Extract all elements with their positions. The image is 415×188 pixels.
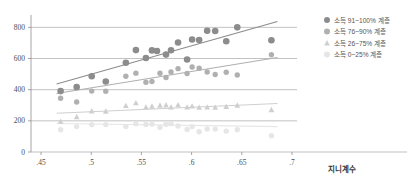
data-point xyxy=(204,27,211,34)
data-point xyxy=(184,71,189,76)
data-point xyxy=(269,133,274,138)
data-point xyxy=(58,127,63,132)
data-point xyxy=(89,88,94,93)
data-point xyxy=(212,126,217,131)
data-point xyxy=(74,99,79,104)
data-point xyxy=(123,124,128,129)
data-point xyxy=(149,103,155,108)
legend-marker-2 xyxy=(324,40,330,45)
data-point xyxy=(163,51,170,58)
data-point xyxy=(184,56,191,63)
y-tick-label: 0 xyxy=(21,148,25,157)
data-point xyxy=(204,126,209,131)
data-point xyxy=(212,104,218,109)
data-point xyxy=(163,75,168,80)
data-point xyxy=(223,38,230,45)
data-point xyxy=(175,66,180,71)
legend-marker-0 xyxy=(324,17,330,23)
x-tick-label: .7 xyxy=(289,158,295,167)
data-point xyxy=(168,104,174,109)
data-point xyxy=(74,124,79,129)
data-point xyxy=(269,107,275,112)
data-point xyxy=(73,84,80,91)
chart-canvas: 0200400600800 .45.5.55.6.65.7 소득 91~100%… xyxy=(0,0,415,188)
data-point xyxy=(189,64,194,69)
data-point xyxy=(269,52,274,57)
data-point xyxy=(89,108,95,113)
data-point xyxy=(168,47,175,54)
x-tick-label: .5 xyxy=(88,158,94,167)
data-point xyxy=(235,72,240,77)
y-tick-labels: 0200400600800 xyxy=(14,23,31,157)
data-point xyxy=(175,123,180,128)
data-point xyxy=(157,125,162,130)
data-point xyxy=(163,102,169,107)
data-point xyxy=(143,122,148,127)
x-tick-label: .65 xyxy=(237,158,247,167)
data-point xyxy=(149,121,154,126)
data-point xyxy=(149,79,154,84)
data-point xyxy=(163,122,168,127)
data-point xyxy=(234,24,241,31)
scatter-chart: 0200400600800 .45.5.55.6.65.7 소득 91~100%… xyxy=(0,0,415,188)
y-tick-label: 600 xyxy=(14,54,26,63)
x-axis-title: 지니계수 xyxy=(328,164,356,174)
data-point xyxy=(189,36,196,43)
data-point xyxy=(57,88,64,95)
data-point xyxy=(143,55,150,62)
data-point xyxy=(235,127,240,132)
data-point xyxy=(184,104,190,109)
data-point xyxy=(133,121,138,126)
x-tick-labels: .45.5.55.6.65.7 xyxy=(36,152,295,167)
data-point xyxy=(88,73,95,80)
x-tick-label: .45 xyxy=(36,158,46,167)
data-point xyxy=(58,96,63,101)
legend-label-1: 소득 76~90% 계층 xyxy=(334,27,386,36)
legend: 소득 91~100% 계층소득 76~90% 계층소득 26~75% 계층소득 … xyxy=(324,16,390,60)
data-point xyxy=(123,59,130,66)
data-points xyxy=(57,24,274,138)
data-point xyxy=(168,69,173,74)
data-point xyxy=(189,124,194,129)
data-point xyxy=(196,65,201,70)
legend-marker-3 xyxy=(324,52,330,58)
legend-label-0: 소득 91~100% 계층 xyxy=(334,16,390,25)
legend-label-3: 소득 0~25% 계층 xyxy=(334,50,382,59)
data-point xyxy=(204,69,209,74)
legend-marker-1 xyxy=(324,29,330,35)
data-point xyxy=(196,129,201,134)
legend-label-2: 소득 26~75% 계층 xyxy=(334,39,386,48)
data-point xyxy=(133,100,139,105)
data-point xyxy=(143,104,149,109)
data-point xyxy=(102,78,109,85)
data-point xyxy=(133,47,140,54)
y-tick-label: 800 xyxy=(14,23,26,32)
data-point xyxy=(224,128,229,133)
y-tick-label: 200 xyxy=(14,116,26,125)
data-point xyxy=(175,102,181,107)
data-point xyxy=(157,71,162,76)
data-point xyxy=(103,122,108,127)
data-point xyxy=(184,127,189,132)
data-point xyxy=(133,70,138,75)
data-point xyxy=(143,79,148,84)
data-point xyxy=(103,89,108,94)
data-point xyxy=(154,48,161,55)
data-point xyxy=(89,122,94,127)
data-point xyxy=(212,28,219,35)
data-point xyxy=(268,37,275,44)
data-point xyxy=(157,102,163,107)
data-point xyxy=(123,103,129,108)
x-tick-label: .6 xyxy=(189,158,195,167)
y-tick-label: 400 xyxy=(14,85,26,94)
data-point xyxy=(196,37,203,44)
data-point xyxy=(168,121,173,126)
data-point xyxy=(175,39,182,46)
data-point xyxy=(224,70,229,75)
data-point xyxy=(212,72,217,77)
x-tick-label: .55 xyxy=(137,158,147,167)
data-point xyxy=(74,114,80,119)
data-point xyxy=(123,74,128,79)
data-point xyxy=(189,103,195,108)
